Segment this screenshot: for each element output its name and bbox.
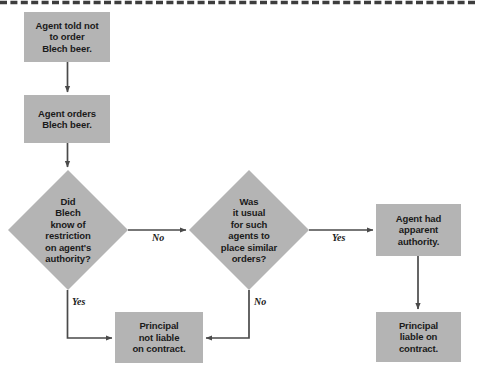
edge-usual-no-to-not-liable — [206, 290, 249, 338]
node-apparent-authority-shape — [376, 204, 461, 256]
node-decision-knew-shape — [8, 170, 128, 290]
node-principal-not-liable-shape — [115, 312, 203, 363]
flowchart-graphics: decision usual --> principal not liable … — [0, 0, 478, 372]
node-decision-usual-shape — [189, 170, 309, 290]
edge-label-usual-no: No — [254, 296, 266, 307]
edge-label-knew-no: No — [152, 232, 164, 243]
edge-label-usual-yes: Yes — [332, 232, 345, 243]
node-agent-orders-shape — [24, 95, 110, 143]
node-principal-liable-shape — [376, 312, 461, 362]
flowchart-canvas: decision usual --> principal not liable … — [0, 0, 478, 372]
node-agent-told-shape — [24, 12, 110, 62]
edge-label-knew-yes: Yes — [72, 296, 85, 307]
